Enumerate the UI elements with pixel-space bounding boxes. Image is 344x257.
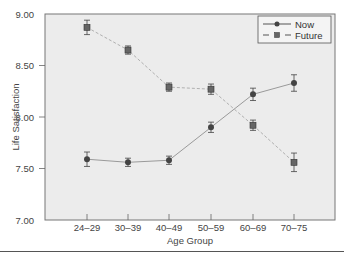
x-tick-label: 24–29 [74, 222, 100, 233]
now-marker-icon [275, 22, 280, 27]
data-point [84, 24, 90, 30]
data-point [166, 157, 172, 163]
data-point [84, 156, 90, 162]
y-tick-label: 7.50 [16, 163, 35, 174]
y-tick-label: 7.00 [16, 215, 35, 226]
data-point [250, 91, 256, 97]
data-point [125, 47, 131, 53]
legend-now-label: Now [295, 19, 314, 30]
x-axis-title: Age Group [167, 235, 213, 246]
plot-area [45, 14, 335, 220]
x-tick-label: 40–49 [156, 222, 182, 233]
data-point [291, 80, 297, 86]
data-point [208, 124, 214, 130]
future-marker-icon [275, 33, 280, 38]
y-tick-label: 9.00 [16, 9, 35, 20]
y-axis-title: Life Satisfaction [10, 83, 21, 150]
x-tick-label: 70–75 [281, 222, 307, 233]
x-tick-label: 30–39 [115, 222, 141, 233]
legend: Now Future [258, 16, 331, 43]
data-point [166, 84, 172, 90]
data-point [125, 159, 131, 165]
y-tick-label: 8.50 [16, 60, 35, 71]
data-point [250, 122, 256, 128]
line-chart: 7.007.508.008.509.00 24–2930–3940–4950–5… [0, 0, 344, 257]
x-tick-label: 50–59 [198, 222, 224, 233]
data-point [291, 159, 297, 165]
legend-future-label: Future [295, 30, 322, 41]
data-point [208, 86, 214, 92]
x-tick-label: 60–69 [240, 222, 266, 233]
